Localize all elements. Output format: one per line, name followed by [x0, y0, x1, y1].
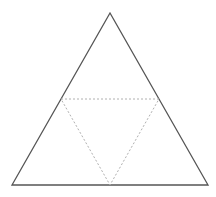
triangle-diagram: [0, 0, 216, 197]
medial-triangle-dotted: [61, 99, 159, 185]
